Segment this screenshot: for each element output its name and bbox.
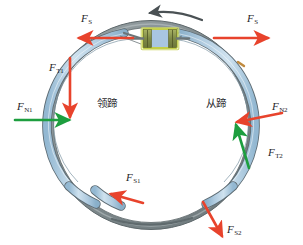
label-fn2-subscript: N2 [279, 106, 287, 114]
trailing-shoe-label: 从蹄 [206, 98, 226, 109]
trailing-shoe [161, 33, 255, 204]
label-fs-left: FS [81, 13, 91, 24]
drum-rotation-arrow [150, 12, 202, 20]
label-fs-left-subscript: S [88, 18, 92, 26]
label-fs-right-subscript: S [254, 18, 258, 26]
label-fn1-symbol: F [17, 100, 24, 112]
label-fs1-symbol: F [126, 171, 133, 183]
label-fn2-symbol: F [272, 100, 279, 112]
label-fn1: FN1 [17, 101, 32, 112]
diagram-canvas [0, 0, 303, 245]
label-fs1: FS1 [126, 172, 140, 183]
label-fn2: FN2 [272, 101, 287, 112]
label-ft2-subscript: T2 [275, 152, 282, 160]
label-ft2: FT2 [268, 147, 282, 158]
label-fs-right: FS [247, 13, 257, 24]
label-ft1-subscript: T1 [56, 67, 63, 75]
label-fs-right-symbol: F [247, 12, 254, 24]
label-fs-left-symbol: F [81, 12, 88, 24]
label-fs2: FS2 [227, 224, 241, 235]
label-ft1-symbol: F [49, 61, 56, 73]
label-fs2-subscript: S2 [234, 229, 241, 237]
label-fs1-subscript: S1 [133, 177, 140, 185]
leading-shoe-label: 领蹄 [97, 98, 117, 109]
label-ft1: FT1 [49, 62, 63, 73]
label-ft2-symbol: F [268, 146, 275, 158]
label-fn1-subscript: N1 [24, 106, 32, 114]
drum-brake-diagram: FS FS FT1 FN1 FN2 FT2 FS1 FS2 领蹄 从蹄 [0, 0, 303, 245]
label-fs2-symbol: F [227, 223, 234, 235]
